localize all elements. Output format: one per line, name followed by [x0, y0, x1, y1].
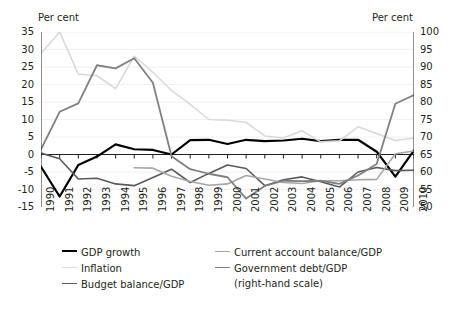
legend-label: Government debt/GDP	[234, 263, 347, 274]
legend-item[interactable]: GDP growth	[62, 246, 140, 258]
right-tick-label: 100	[420, 26, 442, 37]
left-tick-label: 20	[12, 79, 34, 90]
legend-label: Budget balance/GDP	[81, 279, 184, 290]
x-tick-label: 1999	[213, 187, 224, 212]
legend-label: Inflation	[81, 263, 122, 274]
legend-label: GDP growth	[81, 247, 140, 258]
legend-swatch	[62, 267, 77, 268]
right-tick-label: 65	[420, 149, 442, 160]
x-tick-label: 1994	[120, 187, 131, 212]
left-tick-label: -15	[12, 201, 34, 212]
legend-item[interactable]: Inflation	[62, 262, 122, 274]
left-tick-label: 35	[12, 26, 34, 37]
x-tick-label: 1996	[157, 187, 168, 212]
legend-swatch	[215, 267, 230, 268]
x-tick-label: 1998	[194, 187, 205, 212]
right-axis-title: Per cent	[372, 12, 413, 23]
x-tick-label: 1993	[101, 187, 112, 212]
x-tick-label: 2001	[250, 187, 261, 212]
legend-swatch	[215, 251, 230, 252]
left-tick-label: 25	[12, 61, 34, 72]
left-tick-label: 30	[12, 44, 34, 55]
x-tick-label: 1992	[82, 187, 93, 212]
x-tick-label: 2000	[232, 187, 243, 212]
right-tick-label: 75	[420, 114, 442, 125]
series-line-1	[41, 32, 414, 142]
left-tick-label: 15	[12, 96, 34, 107]
left-tick-label: 0	[12, 149, 34, 160]
legend-label: Current account balance/GDP	[234, 247, 382, 258]
chart-legend: GDP growthInflationBudget balance/GDPCur…	[0, 246, 461, 306]
plot-area	[41, 32, 414, 207]
right-tick-label: 70	[420, 131, 442, 142]
legend-item[interactable]: Budget balance/GDP	[62, 278, 184, 290]
right-tick-label: 80	[420, 96, 442, 107]
left-tick-label: -10	[12, 184, 34, 195]
x-tick-label: 2004	[306, 187, 317, 212]
x-tick-label: 2003	[287, 187, 298, 212]
x-tick-label: 2006	[343, 187, 354, 212]
legend-item[interactable]: Current account balance/GDP	[215, 246, 382, 258]
legend-sublabel: (right-hand scale)	[234, 278, 323, 289]
legend-item[interactable]: Government debt/GDP	[215, 262, 347, 274]
x-tick-label: 2007	[362, 187, 373, 212]
x-tick-label: 2010	[418, 187, 429, 212]
right-tick-label: 85	[420, 79, 442, 90]
series-line-0	[41, 139, 414, 197]
x-tick-label: 2005	[325, 187, 336, 212]
x-tick-label: 1995	[138, 187, 149, 212]
chart-svg	[41, 32, 414, 207]
left-tick-label: 10	[12, 114, 34, 125]
x-tick-label: 2002	[269, 187, 280, 212]
chart-figure: Per cent Per cent -15-10-505101520253035…	[0, 0, 461, 309]
x-tick-label: 2009	[399, 187, 410, 212]
left-tick-label: 5	[12, 131, 34, 142]
right-tick-label: 60	[420, 166, 442, 177]
right-tick-label: 90	[420, 61, 442, 72]
x-tick-label: 1990	[45, 187, 56, 212]
legend-swatch	[62, 283, 77, 284]
legend-swatch	[62, 250, 77, 252]
left-axis-title: Per cent	[38, 12, 79, 23]
left-tick-label: -5	[12, 166, 34, 177]
x-tick-label: 1997	[176, 187, 187, 212]
right-tick-label: 95	[420, 44, 442, 55]
x-tick-label: 1991	[64, 187, 75, 212]
x-tick-label: 2008	[381, 187, 392, 212]
